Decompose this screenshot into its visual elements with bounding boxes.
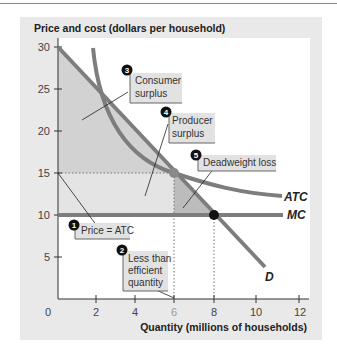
svg-text:Producer: Producer: [172, 115, 213, 126]
mc-label: MC: [287, 208, 306, 222]
x-tick-label: 8: [211, 306, 217, 318]
svg-text:Price = ATC: Price = ATC: [81, 225, 134, 236]
svg-text:2: 2: [120, 246, 125, 255]
y-tick-label: 15: [38, 167, 50, 179]
x-tick-label: 2: [93, 306, 99, 318]
regulated-point: [169, 168, 179, 178]
annotation-less-than-efficient: 2 Less than efficient quantity: [117, 245, 172, 292]
chart-svg: 3 Consumer surplus 4 Producer surplus 5 …: [0, 0, 337, 354]
producer-surplus-region: [58, 173, 174, 215]
svg-text:surplus: surplus: [172, 128, 204, 139]
demand-label: D: [265, 270, 274, 284]
y-tick-label: 30: [38, 41, 50, 53]
x-tick-label: 12: [294, 306, 306, 318]
x-tick-label: 0: [45, 306, 51, 318]
svg-text:Consumer: Consumer: [135, 75, 182, 86]
svg-text:5: 5: [194, 151, 199, 160]
svg-text:Less than: Less than: [128, 253, 171, 264]
efficient-point: [209, 210, 219, 220]
x-tick-label: 6: [171, 306, 177, 318]
x-axis-title: Quantity (millions of households): [140, 321, 307, 333]
y-tick-label: 5: [44, 251, 50, 263]
svg-text:4: 4: [164, 108, 169, 117]
svg-text:Deadweight loss: Deadweight loss: [203, 157, 276, 168]
x-tick-label: 10: [250, 306, 262, 318]
svg-text:3: 3: [125, 66, 130, 75]
svg-text:efficient: efficient: [128, 265, 163, 276]
svg-text:1: 1: [72, 221, 77, 230]
y-tick-label: 10: [38, 209, 50, 221]
y-axis-title: Price and cost (dollars per household): [34, 22, 225, 34]
atc-label: ATC: [283, 190, 308, 204]
y-tick-label: 20: [38, 125, 50, 137]
y-tick-label: 25: [38, 83, 50, 95]
svg-text:surplus: surplus: [135, 88, 167, 99]
svg-text:quantity: quantity: [128, 277, 163, 288]
x-tick-label: 4: [132, 306, 138, 318]
